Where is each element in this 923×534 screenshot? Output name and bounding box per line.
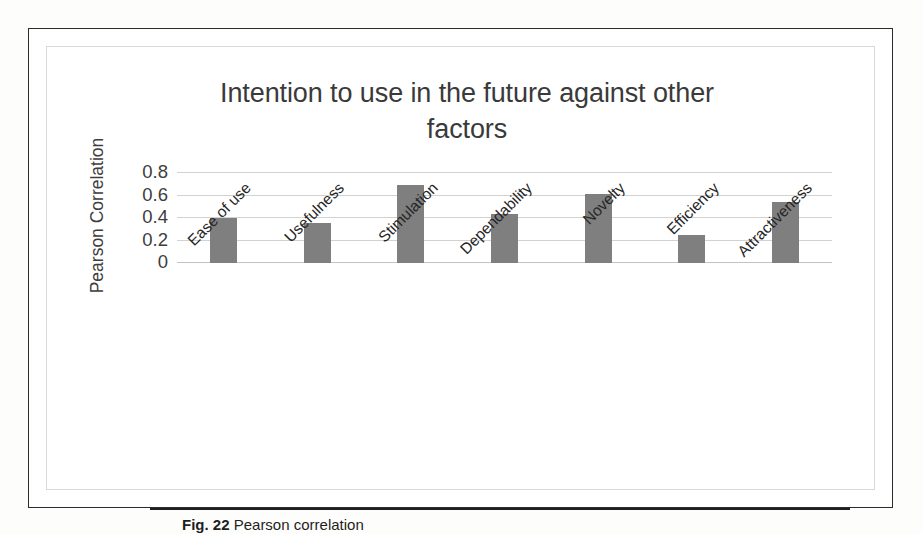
- gridline: 0.8: [177, 172, 832, 173]
- figure-caption-text: Pearson correlation: [234, 516, 364, 533]
- figure-caption: Fig. 22 Pearson correlation: [182, 516, 364, 533]
- chart-title: Intention to use in the future against o…: [107, 75, 827, 147]
- bar[interactable]: [678, 235, 705, 263]
- y-axis-tick-label: 0: [158, 251, 168, 273]
- caption-divider: [150, 508, 850, 510]
- figure-caption-label: Fig. 22: [182, 516, 230, 533]
- x-axis-category-label-text: Efficiency: [663, 179, 722, 238]
- figure-outer-border: Intention to use in the future against o…: [28, 28, 893, 508]
- bar-chart: Intention to use in the future against o…: [47, 47, 874, 489]
- y-axis-tick-label: 0.6: [142, 184, 168, 206]
- plot-area: 00.20.40.60.8Ease of useUsefulnessStimul…: [177, 173, 832, 263]
- y-axis-tick-label: 0.2: [142, 229, 168, 251]
- chart-title-line-2: factors: [107, 111, 827, 147]
- y-axis-tick-label: 0.4: [142, 206, 168, 228]
- y-axis-title: Pearson Correlation: [87, 126, 108, 306]
- scanned-page: Intention to use in the future against o…: [0, 0, 923, 534]
- chart-title-line-1: Intention to use in the future against o…: [107, 75, 827, 111]
- gridline: 0.6: [177, 195, 832, 196]
- figure-inner-border: Intention to use in the future against o…: [46, 46, 875, 490]
- y-axis-tick-label: 0.8: [142, 161, 168, 183]
